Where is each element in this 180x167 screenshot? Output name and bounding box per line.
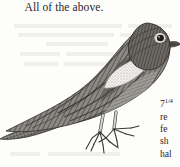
caption-line-3: fe <box>160 123 180 135</box>
figure-caption: 71/4 re fe sh hal <box>160 95 180 160</box>
bird-eye <box>154 33 165 43</box>
caption-line-2: re <box>160 111 180 123</box>
caption-line-measurement: 71/4 <box>160 95 180 111</box>
caption-line-5: hal <box>160 148 180 160</box>
bird-beak <box>170 42 180 47</box>
bird-illustration <box>0 12 180 167</box>
scanned-page: All of the above. <box>0 0 180 167</box>
bird-legs <box>86 112 139 153</box>
bird-head <box>128 23 180 70</box>
caption-line-4: sh <box>160 135 180 147</box>
fraction-one-quarter: 1/4 <box>165 97 173 104</box>
